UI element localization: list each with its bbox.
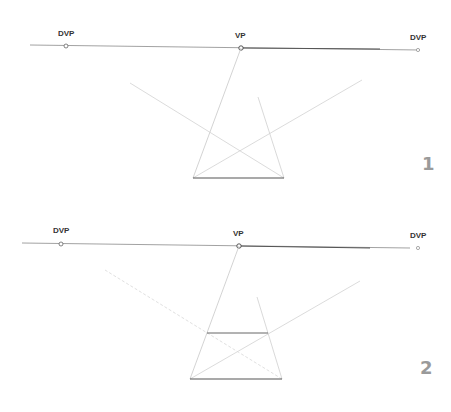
dvp-left-label: DVP: [58, 29, 75, 38]
figure-number: 2: [420, 357, 433, 378]
orthogonal-left: [190, 246, 239, 379]
diagonal-to-left-dvp: [130, 83, 284, 178]
vp-label: VP: [233, 229, 244, 238]
diagonal-to-right-dvp: [190, 281, 360, 379]
dvp-left-label: DVP: [53, 226, 70, 235]
orthogonal-right: [258, 97, 284, 178]
vp-label: VP: [235, 31, 246, 40]
dvp-right-label: DVP: [410, 231, 427, 240]
dvp-right-point: [416, 48, 419, 51]
figure-number: 1: [422, 153, 435, 174]
dvp-right-point: [416, 246, 419, 249]
horizon-line-dark: [241, 48, 380, 49]
diagonal-to-left-dvp: [105, 270, 282, 379]
dvp-right-label: DVP: [410, 33, 427, 42]
figure-1: DVP VP DVP 1: [30, 29, 435, 178]
perspective-diagram: DVP VP DVP 1 DVP VP DVP 2: [0, 0, 451, 412]
dvp-left-point: [64, 44, 68, 48]
orthogonal-left: [193, 48, 241, 178]
diagonal-to-right-dvp: [193, 80, 362, 178]
figure-2: DVP VP DVP 2: [22, 226, 433, 379]
dvp-left-point: [59, 242, 63, 246]
